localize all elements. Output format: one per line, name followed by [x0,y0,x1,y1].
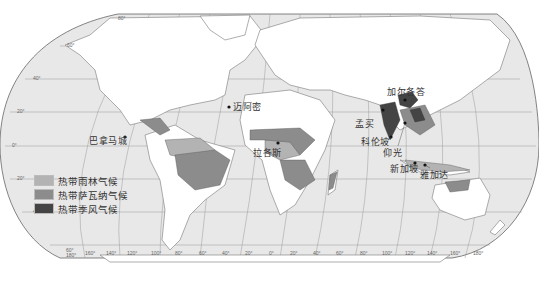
lon-label-180e: 180° [473,250,483,256]
lon-label-40w: 40° [222,250,230,256]
lon-label-140w: 140° [106,250,116,256]
lon-label-20e: 20° [290,250,298,256]
legend-item-monsoon: 热带季风气候 [34,202,128,215]
lon-label-160e: 160° [450,250,460,256]
city-label-panama-city: 巴拿马城 [89,134,127,147]
lon-label-180w: 180° [66,252,76,258]
savanna-swatch [34,189,54,200]
lon-label-140e: 140° [427,250,437,256]
lon-label-100w: 100° [151,250,161,256]
monsoon-swatch [34,203,54,214]
legend-label: 热带雨林气候 [58,174,118,188]
lon-label-80w: 80° [175,250,183,256]
rainforest-swatch [34,175,54,186]
lon-label-60e: 60° [336,250,344,256]
legend: 热带雨林气候 热带萨瓦纳气候 热带季风气候 [34,174,128,216]
antarctica [100,255,450,262]
lon-label-100e: 100° [382,250,392,256]
city-label-mumbai: 孟买 [355,117,374,130]
lon-label-60w: 60° [199,250,207,256]
lon-label-0: 0° [269,250,274,256]
city-label-yangon: 仰光 [383,146,402,159]
lat-label-60n: 60° [67,42,75,48]
lon-label-120e: 120° [405,250,415,256]
lon-label-40e: 40° [313,250,321,256]
lat-label-20s: 20° [17,175,25,181]
lat-label-40n: 40° [33,75,41,81]
lat-label-20n: 20° [17,108,25,114]
city-label-singapore: 新加坡 [390,162,419,175]
city-label-jakarta: 雅加达 [420,168,449,181]
lon-label-80e: 80° [360,250,368,256]
city-label-miami: 迈阿密 [233,100,262,113]
legend-label: 热带萨瓦纳气候 [58,188,128,202]
lat-label-80n: 80° [118,15,126,21]
lat-label-0: 0° [12,142,17,148]
legend-item-rainforest: 热带雨林气候 [34,174,128,187]
city-label-kolkata: 加尔各答 [387,85,425,98]
lon-label-20w: 20° [245,250,253,256]
legend-item-savanna: 热带萨瓦纳气候 [34,188,128,201]
city-label-lagos: 拉各斯 [253,146,282,159]
world-map [0,0,539,286]
legend-label: 热带季风气候 [58,202,118,216]
lon-label-120w: 120° [127,250,137,256]
lon-label-160w: 160° [85,250,95,256]
